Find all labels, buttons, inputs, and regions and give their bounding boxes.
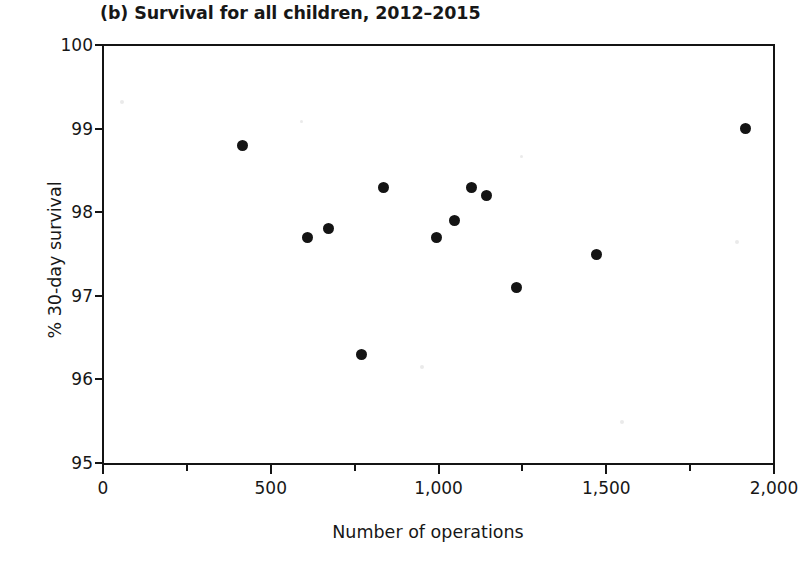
x-axis-tick-mark: [773, 465, 775, 474]
y-axis-tick-mark: [95, 462, 103, 464]
y-axis-tick-label: 98: [33, 202, 93, 222]
scan-speck: [520, 155, 523, 158]
data-point: [323, 223, 334, 234]
y-axis-tick-label: 96: [33, 369, 93, 389]
data-point: [302, 232, 313, 243]
y-axis-tick-mark: [95, 295, 103, 297]
x-axis-tick-mark: [438, 465, 440, 474]
scan-speck: [735, 240, 739, 244]
scan-speck: [420, 365, 424, 369]
data-point: [431, 232, 442, 243]
x-axis-tick-label: 1,000: [399, 478, 479, 498]
x-axis-tick-mark: [102, 465, 104, 474]
x-axis-tick-mark: [605, 465, 607, 474]
x-axis-minor-tick: [186, 465, 188, 471]
y-axis-tick-mark: [95, 128, 103, 130]
y-axis-tick-label: 95: [33, 453, 93, 473]
y-axis-tick-label: 99: [33, 119, 93, 139]
data-point: [356, 349, 367, 360]
y-axis-tick-mark: [95, 211, 103, 213]
data-point: [237, 140, 248, 151]
y-axis-tick-label: 100: [33, 35, 93, 55]
chart-title: (b) Survival for all children, 2012–2015: [100, 3, 481, 23]
x-axis-tick-label: 2,000: [734, 478, 800, 498]
data-point: [481, 190, 492, 201]
x-axis-tick-mark: [270, 465, 272, 474]
x-axis-minor-tick: [521, 465, 523, 471]
data-point: [740, 123, 751, 134]
scan-speck: [620, 420, 624, 424]
scan-speck: [120, 100, 124, 104]
x-axis-tick-label: 1,500: [566, 478, 646, 498]
scatter-chart-figure: (b) Survival for all children, 2012–2015…: [0, 0, 800, 561]
data-point: [466, 182, 477, 193]
y-axis-tick-mark: [95, 44, 103, 46]
data-point: [591, 249, 602, 260]
scan-speck: [300, 120, 303, 123]
plot-area: [103, 45, 774, 463]
data-point: [378, 182, 389, 193]
data-point: [449, 215, 460, 226]
data-point: [511, 282, 522, 293]
y-axis-tick-label: 97: [33, 286, 93, 306]
y-axis-label: % 30-day survival: [45, 110, 65, 410]
y-axis-tick-mark: [95, 378, 103, 380]
x-axis-minor-tick: [689, 465, 691, 471]
x-axis-minor-tick: [354, 465, 356, 471]
x-axis-tick-label: 0: [63, 478, 143, 498]
x-axis-tick-label: 500: [231, 478, 311, 498]
x-axis-label: Number of operations: [103, 522, 753, 542]
